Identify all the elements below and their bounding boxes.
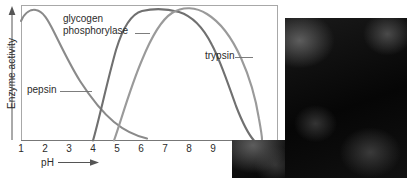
- x-tick-2: 2: [38, 143, 52, 154]
- x-tick-6: 6: [134, 143, 148, 154]
- x-tick-9: 9: [206, 143, 220, 154]
- x-axis-arrow: [58, 159, 99, 165]
- curve-label-glycogen-phosphorylase-line1: glycogen: [63, 13, 128, 25]
- x-tick-1: 1: [14, 143, 28, 154]
- x-tick-7: 7: [158, 143, 172, 154]
- photo-background: [285, 18, 407, 178]
- pitcher-plant-photo: [285, 18, 407, 178]
- x-tick-4: 4: [86, 143, 100, 154]
- x-axis-title: pH: [41, 157, 54, 168]
- curve-label-pepsin: pepsin: [27, 84, 56, 96]
- photo-scene: [285, 18, 407, 178]
- plot-frame: [22, 6, 278, 141]
- x-tick-8: 8: [182, 143, 196, 154]
- enzyme-ph-figure: Enzyme activity pH 1 2 3 4 5 6 7 8 9 10 …: [0, 0, 407, 178]
- curve-label-trypsin: trypsin: [205, 50, 234, 62]
- curve-label-glycogen-phosphorylase-line2: phosphorylase: [63, 25, 128, 37]
- curve-label-glycogen-phosphorylase: glycogen phosphorylase: [63, 13, 128, 37]
- y-axis-title: Enzyme activity: [6, 22, 17, 126]
- x-tick-5: 5: [110, 143, 124, 154]
- x-tick-3: 3: [62, 143, 76, 154]
